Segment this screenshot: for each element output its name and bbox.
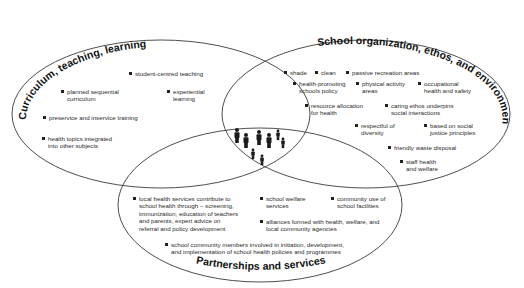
item-org-diversity: respectful of diversity [355,122,395,137]
item-partner-welfare-services: school welfare services [260,195,306,210]
item-curriculum-planned: planned sequential curriculum [61,88,119,103]
item-curriculum-training: preservice and inservice training [43,114,138,121]
bullet-icon [315,71,318,74]
bullet-icon [61,90,64,93]
bullet-icon [418,82,421,85]
bullet-icon [43,116,46,119]
bullet-icon [346,71,349,74]
item-partner-alliances: alliances formed with health, welfare, a… [260,218,380,233]
bullet-icon [42,137,45,140]
bullet-icon [167,90,170,93]
item-org-staff-health: staff health and welfare [400,158,438,173]
item-org-social-justice: based on social justice principles [424,122,475,137]
item-org-passive-recreation: passive recreation areas [346,69,419,76]
item-org-caring-ethos: caring ethos underpins social interactio… [385,102,454,117]
bullet-icon [260,220,263,223]
venn-diagram: Curriculum, teaching, learning School or… [0,0,524,288]
bullet-icon [260,197,263,200]
item-org-shade: shade [284,69,307,76]
bullet-icon [165,243,168,246]
item-curriculum-health-topics: health topics integrated into other subj… [42,135,112,150]
bullet-icon [356,82,359,85]
bullet-icon [293,82,296,85]
bullet-icon [305,104,308,107]
item-curriculum-student-centred: student-centred teaching [129,70,203,77]
bullet-icon [400,160,403,163]
item-org-physical-activity: physical activity areas [356,80,405,95]
item-curriculum-experiential: experiential learning [167,88,205,103]
bullet-icon [129,72,132,75]
title-curriculum: Curriculum, teaching, learning [16,37,147,120]
item-org-resource: resource allocation for health [305,102,363,117]
bullet-icon [355,124,358,127]
item-partner-community-members: school community members involved in ini… [165,241,344,256]
item-partner-local-health: local health services contribute to scho… [133,195,238,232]
people-group-icon [235,128,285,165]
item-org-clean: clean [315,69,336,76]
item-partner-community-use: community use of school facilities [331,195,386,210]
item-org-policy: health-promoting schools policy [293,80,345,95]
bullet-icon [331,197,334,200]
bullet-icon [385,104,388,107]
bullet-icon [133,197,136,200]
bullet-icon [284,71,287,74]
item-org-waste: friendly waste disposal [388,144,456,151]
bullet-icon [424,124,427,127]
bullet-icon [388,146,391,149]
item-org-occupational: occupational health and safety [418,80,471,95]
title-partnerships: Partnerships and services [195,253,326,272]
